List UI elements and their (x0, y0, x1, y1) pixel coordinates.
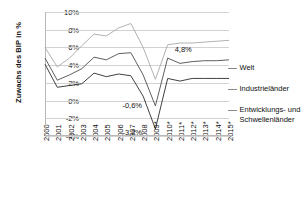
legend-line-swatch-entwicklungslaender (228, 110, 237, 111)
legend-line-swatch-industrielaender (228, 89, 237, 90)
y-axis-title: Zuwachs des BIP in % (14, 8, 23, 118)
series-lines (45, 12, 229, 136)
legend: Welt Industrieländer Entwicklungs- undSc… (228, 63, 308, 136)
data-label: 4,8% (175, 45, 192, 54)
legend-label-line2: Schwellenländer (240, 115, 295, 124)
legend-label-line1: Entwicklungs- und (240, 105, 301, 114)
legend-label-entwicklungslaender: Entwicklungs- undSchwellenländer (240, 105, 301, 124)
legend-item-industrielaender: Industrieländer (228, 84, 308, 94)
data-label: -0,6% (122, 101, 142, 110)
series-line (45, 53, 229, 106)
legend-label-industrielaender: Industrieländer (240, 84, 290, 94)
legend-line-swatch-welt (228, 68, 237, 69)
data-label: -3,2% (122, 128, 142, 137)
legend-item-entwicklungslaender: Entwicklungs- undSchwellenländer (228, 105, 308, 124)
legend-item-welt: Welt (228, 63, 308, 73)
series-line (45, 64, 229, 129)
gdp-growth-line-chart: Zuwachs des BIP in % 10%8%6%4%2%0%-2%-4%… (0, 0, 308, 197)
plot-area (45, 12, 229, 136)
legend-label-welt: Welt (240, 63, 255, 73)
series-line (45, 24, 229, 80)
